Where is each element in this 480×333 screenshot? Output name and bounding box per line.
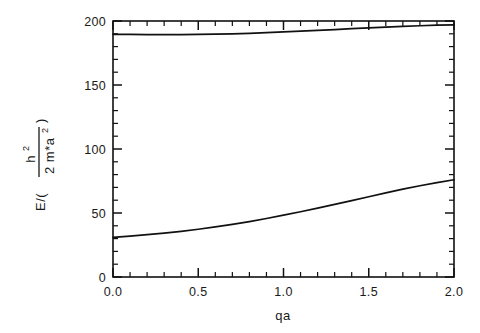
y-axis-tick-labels: 050100150200 <box>84 15 106 285</box>
y-axis-title-denominator: 2 m*a <box>42 137 57 174</box>
x-tick-label: 0.0 <box>104 285 122 299</box>
y-axis-ticks-right <box>445 21 454 277</box>
data-series-group <box>113 25 454 237</box>
y-axis-title: E/( h 2 2 m*a 2 ) <box>21 118 57 211</box>
y-axis-title-denominator-exponent: 2 <box>40 128 50 133</box>
plot-frame <box>113 21 454 277</box>
x-axis-tick-labels: 0.00.51.01.52.0 <box>104 285 463 299</box>
x-tick-label: 2.0 <box>445 285 463 299</box>
y-axis-title-numerator: h <box>23 155 38 163</box>
curve-lower-band <box>113 180 454 238</box>
y-tick-label: 100 <box>84 143 106 157</box>
y-tick-label: 200 <box>84 15 106 29</box>
x-axis-ticks-top <box>113 21 454 30</box>
line-chart: 0.00.51.01.52.0 050100150200 qa E/( h 2 … <box>0 0 480 333</box>
y-axis-title-suffix: ) <box>33 118 48 123</box>
x-axis-ticks-bottom <box>113 268 454 277</box>
y-tick-label: 0 <box>99 271 106 285</box>
axes-frame <box>113 21 454 277</box>
x-axis-title: qa <box>275 308 291 323</box>
figure-panel: 0.00.51.01.52.0 050100150200 qa E/( h 2 … <box>0 0 480 333</box>
y-axis-title-prefix: E/( <box>33 193 48 211</box>
y-axis-title-numerator-exponent: 2 <box>21 146 31 151</box>
y-tick-label: 150 <box>84 79 106 93</box>
y-axis-ticks-left <box>113 21 122 277</box>
x-tick-label: 1.5 <box>360 285 378 299</box>
y-tick-label: 50 <box>91 207 106 221</box>
x-tick-label: 1.0 <box>274 285 292 299</box>
x-tick-label: 0.5 <box>189 285 207 299</box>
